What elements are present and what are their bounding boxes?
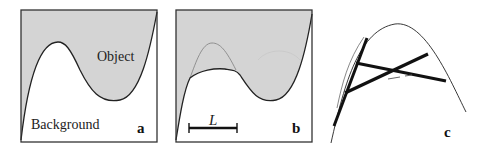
panel-letter-a: a — [137, 120, 145, 136]
figure-svg: Object Background a L b — [0, 0, 485, 152]
scale-bar: L — [189, 112, 237, 133]
object-label: Object — [97, 49, 134, 64]
figure: Object Background a L b — [0, 0, 485, 152]
panel-a: Object Background a — [21, 10, 157, 142]
background-label: Background — [31, 117, 99, 132]
panel-letter-c: c — [444, 124, 451, 140]
panel-c: c — [331, 24, 466, 143]
scale-bar-label: L — [208, 112, 217, 128]
panel-b: L b — [176, 10, 312, 142]
left-thick-segment — [334, 38, 367, 126]
dashed-segment — [388, 75, 412, 79]
panel-letter-b: b — [292, 120, 300, 136]
